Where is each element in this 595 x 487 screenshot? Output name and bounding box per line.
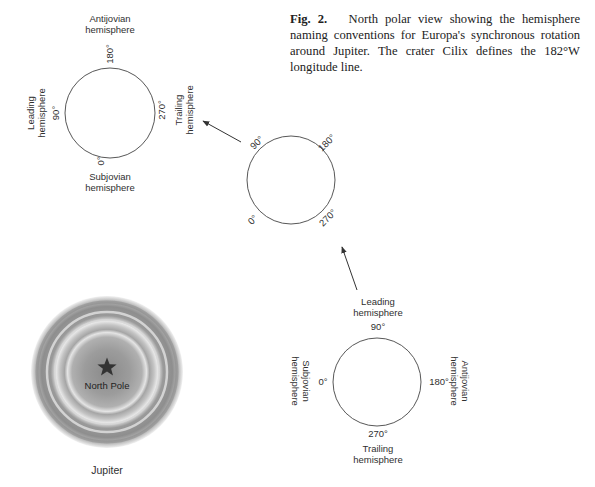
ne-degree: 180° xyxy=(316,132,338,154)
sw-degree: 0° xyxy=(245,212,259,226)
top-degree: 180° xyxy=(104,44,115,64)
arrow-to-middle xyxy=(342,247,357,290)
top-hemi-line2: hemisphere xyxy=(85,24,135,35)
top-hemi-line2: hemisphere xyxy=(353,307,403,318)
jupiter-disk xyxy=(31,296,183,448)
diagram-top-left: Antijovian hemisphere 180° 90° Leading h… xyxy=(25,13,195,193)
top-hemi-line1: Antijovian xyxy=(89,13,130,24)
bottom-hemi-line2: hemisphere xyxy=(85,182,135,193)
right-hemi-line2: hemisphere xyxy=(184,85,195,135)
diagram-bottom-right: Leading hemisphere 90° 0° Subjovian hemi… xyxy=(290,296,471,465)
europa-circle xyxy=(65,68,155,158)
bottom-hemi-line1: Trailing xyxy=(363,443,394,454)
se-degree: 270° xyxy=(317,207,339,229)
bottom-degree: 0° xyxy=(95,156,106,165)
right-hemi-line1: Trailing xyxy=(173,95,184,126)
right-degree: 270° xyxy=(156,100,167,120)
top-hemi-line1: Leading xyxy=(361,296,395,307)
right-hemi-line2: hemisphere xyxy=(449,356,460,406)
hemisphere-diagram: Antijovian hemisphere 180° 90° Leading h… xyxy=(0,0,595,487)
nw-degree: 90° xyxy=(248,133,266,151)
jupiter-image: North Pole Jupiter xyxy=(31,296,183,476)
bottom-hemi-line1: Subjovian xyxy=(89,171,131,182)
left-hemi-line1: Subjovian xyxy=(301,360,312,402)
bottom-degree: 270° xyxy=(368,428,388,439)
left-degree: 0° xyxy=(318,376,327,387)
arrow-to-top-left xyxy=(203,121,241,142)
europa-circle xyxy=(333,338,421,426)
left-hemi-line2: hemisphere xyxy=(290,356,301,406)
bottom-hemi-line2: hemisphere xyxy=(353,454,403,465)
left-degree: 90° xyxy=(50,106,61,121)
right-hemi-line1: Antijovian xyxy=(460,360,471,401)
diagram-middle: 90° 180° 0° 270° xyxy=(245,132,338,229)
top-degree: 90° xyxy=(371,321,386,332)
left-hemi-line1: Leading xyxy=(25,96,36,130)
jupiter-label: Jupiter xyxy=(91,464,123,476)
left-hemi-line2: hemisphere xyxy=(36,88,47,138)
right-degree: 180° xyxy=(429,376,449,387)
north-pole-label: North Pole xyxy=(85,380,130,391)
